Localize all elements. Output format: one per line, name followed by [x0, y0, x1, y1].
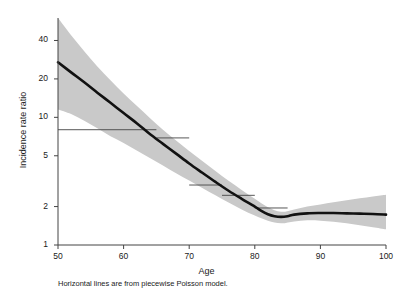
x-axis-tick-label: 60 — [112, 251, 136, 261]
x-axis-tick-label: 70 — [177, 251, 201, 261]
chart-caption: Horizontal lines are from piecewise Pois… — [58, 279, 228, 288]
x-axis-tick-label: 100 — [374, 251, 398, 261]
x-axis-ticks — [58, 245, 386, 249]
confidence-band-group — [58, 18, 386, 229]
y-axis-ticks — [54, 40, 58, 245]
x-axis-tick-label: 90 — [308, 251, 332, 261]
x-axis-tick-label: 80 — [243, 251, 267, 261]
confidence-band-area — [58, 18, 386, 229]
y-axis-tick-label: 40 — [28, 34, 48, 44]
y-axis-tick-label: 2 — [28, 201, 48, 211]
incidence-rate-ratio-chart: 1251020405060708090100 Incidence rate ra… — [0, 0, 413, 301]
x-axis-tick-label: 50 — [46, 251, 70, 261]
y-axis-tick-label: 1 — [28, 239, 48, 249]
y-axis-tick-label: 5 — [28, 150, 48, 160]
y-axis-tick-label: 10 — [28, 111, 48, 121]
y-axis-title: Incidence rate ratio — [18, 60, 28, 200]
x-axis-title: Age — [0, 266, 413, 276]
y-axis-tick-label: 20 — [28, 73, 48, 83]
